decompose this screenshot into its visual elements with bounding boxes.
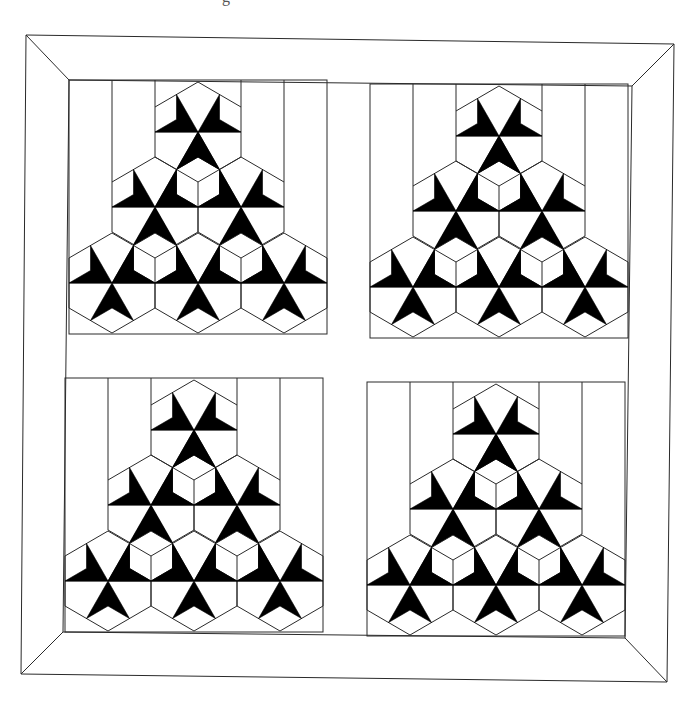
block-bottom-right (367, 382, 625, 636)
dart-up-left (453, 397, 496, 435)
dart-down (177, 283, 220, 321)
dart-down (478, 287, 521, 325)
dart-up-right (198, 95, 241, 133)
dart-up-right (284, 246, 327, 284)
block-bottom-left (65, 378, 323, 632)
dart-down (263, 283, 306, 321)
dart-up-right (582, 548, 625, 586)
dart-down (173, 581, 216, 619)
dart-down (91, 283, 134, 321)
dart-up-left (456, 99, 499, 137)
dart-up-left (367, 548, 410, 586)
dart-up-left (112, 170, 155, 208)
dart-up-left (108, 468, 151, 506)
dart-up-right (496, 397, 539, 435)
quilt-blocks (65, 80, 628, 636)
dart-up-right (241, 170, 284, 208)
dart-down (561, 585, 604, 623)
dart-down (87, 581, 130, 619)
dart-up-left (370, 250, 413, 288)
block-top-right (370, 84, 628, 338)
dart-up-left (410, 472, 453, 510)
dart-up-right (542, 174, 585, 212)
dart-up-left (69, 246, 112, 284)
dart-up-left (413, 174, 456, 212)
dart-up-right (539, 472, 582, 510)
dart-up-right (194, 393, 237, 431)
dart-up-right (585, 250, 628, 288)
dart-down (259, 581, 302, 619)
dart-up-left (65, 544, 108, 582)
quilt-diagram (0, 0, 698, 705)
dart-up-left (155, 95, 198, 133)
dart-down (564, 287, 607, 325)
border-miter-line (21, 632, 63, 674)
block-top-left (69, 80, 327, 334)
dart-up-left (151, 393, 194, 431)
dart-down (389, 585, 432, 623)
dart-down (475, 585, 518, 623)
border-miter-line (26, 35, 69, 80)
dart-up-right (280, 544, 323, 582)
border-miter-line (625, 638, 667, 682)
dart-up-right (499, 99, 542, 137)
dart-up-right (237, 468, 280, 506)
dart-down (392, 287, 435, 325)
border-miter-line (632, 44, 674, 86)
